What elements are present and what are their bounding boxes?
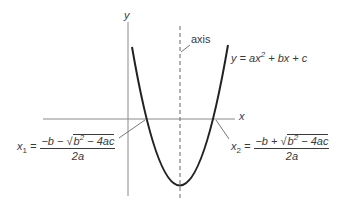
axis-leader xyxy=(181,45,190,52)
root1-formula: x1 = −b − √b2 − 4ac 2a xyxy=(17,133,115,162)
root2-numerator: −b + √b2 − 4ac xyxy=(254,133,329,149)
root1-denominator: 2a xyxy=(72,149,84,162)
root1-numerator: −b − √b2 − 4ac xyxy=(40,133,115,149)
root2-formula: x2 = −b + √b2 − 4ac 2a xyxy=(231,133,329,162)
y-axis-label: y xyxy=(124,10,130,21)
root1-leader xyxy=(119,120,145,138)
axis-label: axis xyxy=(191,34,211,45)
parabola-curve xyxy=(132,45,228,186)
root2-leader xyxy=(216,120,229,139)
equation-label: y = ax2 + bx + c xyxy=(231,51,307,64)
root2-denominator: 2a xyxy=(286,149,298,162)
diagram-canvas xyxy=(0,0,344,210)
x-axis-label: x xyxy=(239,111,245,122)
